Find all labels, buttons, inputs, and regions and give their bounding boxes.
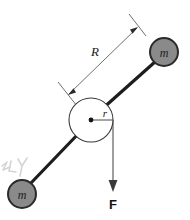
mass-top-right: m <box>150 38 178 66</box>
diagram-canvas: m m R r F <box>0 0 190 220</box>
dimension-arrowhead-upper <box>130 27 138 34</box>
force-arrowhead <box>109 180 118 192</box>
extension-tick-lower <box>58 82 77 106</box>
hub-group <box>69 98 113 142</box>
hub-center-dot <box>89 118 94 123</box>
mass-top-right-label: m <box>160 46 169 60</box>
dimension-line-R <box>69 28 137 94</box>
margin-scribble <box>2 158 27 176</box>
scribble-stroke-two <box>9 161 16 172</box>
dimension-arrowhead-lower <box>68 88 76 95</box>
mass-bottom-left: m <box>8 180 36 208</box>
physics-diagram-figure: m m R r F <box>0 0 190 220</box>
label-R: R <box>90 44 99 59</box>
mass-bottom-left-label: m <box>18 188 27 202</box>
rod-lower-left <box>31 132 80 183</box>
label-r: r <box>103 107 108 119</box>
label-F: F <box>109 197 117 212</box>
rod-upper-right <box>101 61 156 110</box>
scribble-stroke-three <box>18 158 27 176</box>
dimension-R-group <box>58 14 146 106</box>
